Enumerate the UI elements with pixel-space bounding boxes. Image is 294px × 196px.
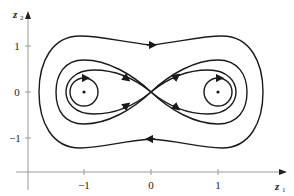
x-tick-1: 1 (215, 179, 221, 191)
x-tick-neg1: −1 (78, 179, 90, 191)
x-axis-arrow-icon (279, 169, 287, 175)
x-tick-0: 0 (148, 179, 154, 191)
y-tick-1: 1 (14, 40, 20, 52)
y-tick-neg1: −1 (9, 132, 21, 144)
x-axis-subscript: 1 (282, 186, 286, 194)
y-tick-0: 0 (14, 86, 20, 98)
x-axis-label: z (274, 180, 280, 192)
equilibrium-right-dot (216, 90, 219, 93)
y-axis-subscript: 2 (20, 14, 24, 22)
y-axis-arrow-icon (25, 11, 31, 19)
phase-portrait: 1 0 −1 −1 0 1 z 2 z 1 (0, 0, 294, 196)
separatrix (66, 70, 236, 114)
y-axis-label: z (12, 8, 18, 20)
equilibrium-left-dot (82, 90, 85, 93)
